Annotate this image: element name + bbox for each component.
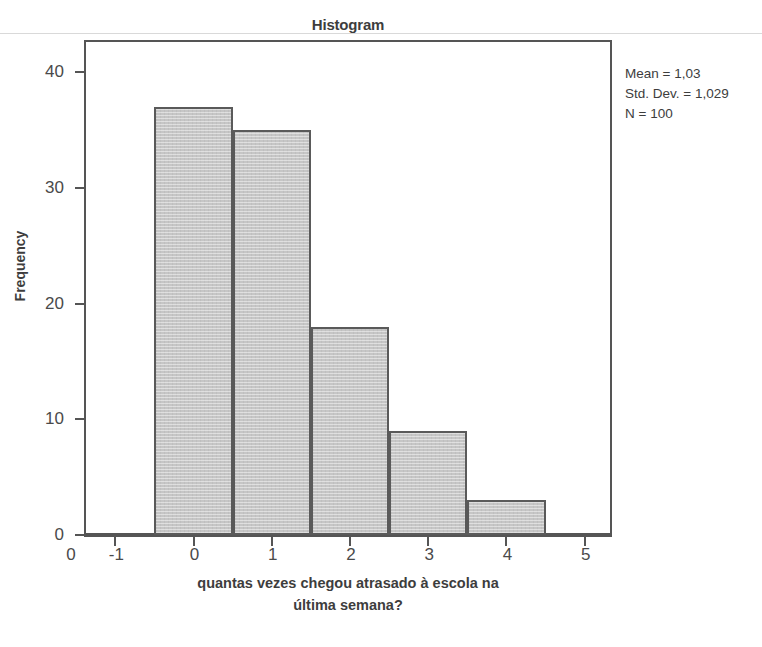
x-axis-tick-label: 5 bbox=[566, 545, 606, 565]
caption-band bbox=[0, 625, 762, 647]
title-divider bbox=[0, 33, 762, 34]
plot-area bbox=[84, 40, 612, 535]
y-axis-tick bbox=[75, 534, 84, 536]
stat-mean: Mean = 1,03 bbox=[625, 64, 729, 84]
chart-title: Histogram bbox=[84, 16, 612, 33]
y-axis-tick bbox=[75, 418, 84, 420]
x-axis-title: quantas vezes chegou atrasado à escola n… bbox=[84, 572, 612, 616]
histogram-bar bbox=[389, 431, 467, 535]
x-axis-tick-label: -1 bbox=[96, 545, 136, 565]
y-axis-tick bbox=[75, 71, 84, 73]
y-axis-tick bbox=[75, 187, 84, 189]
x-axis-tick-label: 3 bbox=[409, 545, 449, 565]
x-axis-title-line1: quantas vezes chegou atrasado à escola n… bbox=[197, 575, 498, 591]
statistics-annotation: Mean = 1,03 Std. Dev. = 1,029 N = 100 bbox=[625, 64, 729, 124]
y-axis-tick-label: 40 bbox=[18, 62, 64, 82]
x-axis-title-line2: última semana? bbox=[293, 597, 403, 613]
histogram-bar bbox=[311, 327, 389, 535]
y-axis-tick-label: 10 bbox=[18, 409, 64, 429]
histogram-bar bbox=[154, 107, 232, 535]
x-axis-tick-label: 0 bbox=[175, 545, 215, 565]
y-axis-title: Frequency bbox=[12, 196, 28, 336]
stat-std-dev: Std. Dev. = 1,029 bbox=[625, 84, 729, 104]
x-axis-tick-label: 1 bbox=[253, 545, 293, 565]
histogram-bar bbox=[233, 130, 311, 535]
histogram-figure: Histogram 010203040 Frequency -10123450 … bbox=[0, 0, 762, 647]
y-axis-tick-label: 0 bbox=[18, 525, 64, 545]
stat-n: N = 100 bbox=[625, 104, 729, 124]
x-axis-tick-label: 2 bbox=[331, 545, 371, 565]
x-axis-origin-label: 0 bbox=[51, 545, 91, 565]
histogram-bar bbox=[467, 500, 545, 535]
y-axis-tick bbox=[75, 303, 84, 305]
x-axis-tick-label: 4 bbox=[487, 545, 527, 565]
